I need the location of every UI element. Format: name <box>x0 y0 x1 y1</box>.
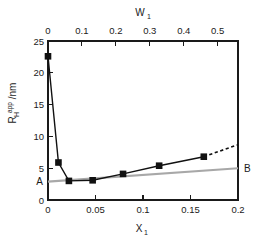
x-axis-tick-labels: 0 0.05 0.1 0.15 0.2 <box>45 204 244 215</box>
chart-plot-area: 0 0.05 0.1 0.15 0.2 X 1 0 0.1 0.2 0.3 0.… <box>0 0 265 245</box>
y-axis-title-sup: app <box>6 102 14 113</box>
data-series-dashed-extension <box>204 145 238 157</box>
x2-tick-label: 0.4 <box>177 25 190 36</box>
y-axis-title-unit: /nm <box>7 83 18 100</box>
data-series-line <box>48 56 204 181</box>
x2-axis-tick-labels: 0 0.1 0.2 0.3 0.4 0.5 <box>45 25 224 36</box>
y-tick-label: 15 <box>33 99 44 110</box>
x2-tick-label: 0 <box>45 25 50 36</box>
y-axis-title: R H app /nm <box>6 83 21 124</box>
x-tick-label: 0.1 <box>136 204 149 215</box>
x2-tick-label: 0.1 <box>75 25 88 36</box>
x-axis-ticks <box>48 195 238 200</box>
y-tick-label: 0 <box>39 195 44 206</box>
y-tick-label: 10 <box>33 131 44 142</box>
x-axis-title: X 1 <box>136 223 148 236</box>
data-point-marker <box>120 171 127 178</box>
x-axis-title-base: X <box>136 223 143 234</box>
data-markers <box>45 53 207 184</box>
x-tick-label: 0.2 <box>231 204 244 215</box>
x-tick-label: 0.15 <box>181 204 200 215</box>
x2-tick-label: 0.2 <box>109 25 122 36</box>
x2-axis-title-base: W <box>135 7 145 18</box>
data-point-marker <box>45 53 52 60</box>
x2-axis-title: W 1 <box>135 7 151 20</box>
x-tick-label: 0 <box>45 204 50 215</box>
data-point-marker <box>55 159 62 166</box>
data-point-marker <box>66 178 73 185</box>
plot-frame <box>48 41 238 200</box>
y-tick-label: 5 <box>39 163 44 174</box>
y-axis-title-sub: H <box>13 112 20 117</box>
data-point-marker <box>89 177 96 184</box>
x2-axis-ticks <box>48 41 218 46</box>
x2-axis-title-sub: 1 <box>147 13 151 20</box>
x-tick-label: 0.05 <box>86 204 105 215</box>
data-point-marker <box>156 162 163 169</box>
data-point-marker <box>201 153 208 160</box>
annotation-label-b: B <box>244 163 251 174</box>
reference-line-b <box>48 168 238 181</box>
x2-tick-label: 0.3 <box>143 25 156 36</box>
x-axis-title-sub: 1 <box>144 229 148 236</box>
chart-figure: 0 0.05 0.1 0.15 0.2 X 1 0 0.1 0.2 0.3 0.… <box>0 0 265 245</box>
y-tick-label: 25 <box>33 36 44 47</box>
y-tick-label: 20 <box>33 67 44 78</box>
annotation-label-a: A <box>36 176 43 187</box>
x2-tick-label: 0.5 <box>211 25 224 36</box>
